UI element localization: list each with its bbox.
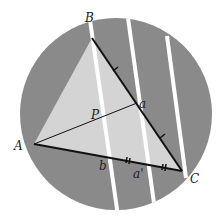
geometry-diagram: B A C P a b a' xyxy=(0,0,221,224)
label-c-vertex: C xyxy=(190,172,199,186)
label-a-midpoint: a xyxy=(139,97,146,111)
label-b-point: b xyxy=(99,159,107,173)
label-p: P xyxy=(90,108,100,122)
label-a-vertex: A xyxy=(13,139,23,153)
label-b-vertex: B xyxy=(84,11,94,25)
label-a-prime: a' xyxy=(133,167,143,181)
